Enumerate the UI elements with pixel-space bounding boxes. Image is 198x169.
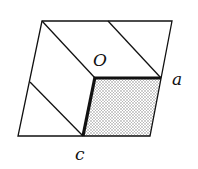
label-origin: O	[93, 50, 107, 70]
label-a: a	[172, 69, 182, 89]
edge-topleft-to-origin	[42, 21, 95, 78]
edge-top-to-a	[108, 21, 161, 78]
shaded-face	[83, 78, 161, 136]
label-c: c	[75, 144, 85, 164]
lattice-diagram: O a c	[0, 0, 198, 169]
edge-left-to-c	[30, 82, 83, 136]
